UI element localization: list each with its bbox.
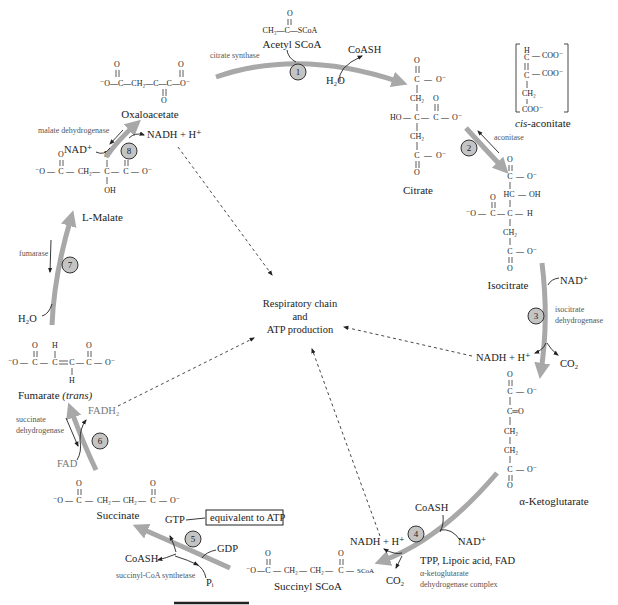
enzyme-label: succinyl-CoA synthetase (116, 571, 196, 580)
svg-text:—: — (496, 209, 506, 218)
svg-text:C: C (414, 75, 419, 84)
svg-text:HO: HO (390, 113, 402, 122)
step-5-succinyl-coa-synthetase: GTP equivalent to ATP 5 GDP CoASH Pᵢ suc… (116, 510, 285, 588)
svg-text:C: C (524, 53, 529, 62)
svg-text:SCoA: SCoA (357, 567, 374, 575)
svg-text:CH₂: CH₂ (503, 228, 517, 237)
svg-text:O⁻: O⁻ (436, 151, 446, 160)
citric-acid-cycle-diagram: O CH₃—C—SCoA Acetyl SCoA O O ⁻O—C—CH₂—C—… (0, 0, 618, 605)
isocitrate-structure: O C — O⁻ HC — OH O ⁻O — C — C — H CH₂ C … (466, 155, 541, 291)
svg-text:CH₃—C—SCoA: CH₃—C—SCoA (263, 26, 318, 35)
svg-text:—: — (130, 167, 140, 176)
oxaloacetate-structure: O O ⁻O—C—CH₂—C—C—O⁻ O Oxaloacetate (100, 60, 190, 120)
svg-text:O⁻: O⁻ (170, 496, 180, 505)
svg-text:O⁻: O⁻ (527, 172, 537, 181)
svg-text:O⁻: O⁻ (436, 75, 446, 84)
svg-text:isocitrate: isocitrate (555, 305, 585, 314)
svg-text:O: O (433, 94, 439, 103)
svg-text:O: O (507, 264, 513, 273)
water-input: H₂O (326, 75, 345, 86)
svg-text:O: O (414, 56, 420, 65)
phosphate-input: Pᵢ (206, 577, 214, 588)
svg-text:—: — (423, 75, 433, 84)
svg-text:—: — (111, 496, 121, 505)
succinate-structure: O O ⁻O — C — CH₂ — CH₂ — C — O⁻ Succinat… (53, 479, 180, 521)
svg-text:—: — (64, 496, 74, 505)
equivalent-to-atp-note: equivalent to ATP (210, 512, 285, 523)
svg-text:—: — (84, 496, 94, 505)
gdp-input: GDP (217, 543, 238, 554)
svg-text:—: — (93, 358, 103, 367)
step-2-aconitase: aconitase 2 (461, 128, 524, 168)
center-line-3: ATP production (267, 324, 334, 335)
svg-text:O: O (178, 60, 184, 69)
svg-text:O: O (76, 479, 82, 488)
co2-output: CO₂ (560, 358, 579, 369)
svg-text:—: — (440, 113, 450, 122)
fumarate-structure: O H O ⁻O — C — C C — C — O⁻ H Fumarate (… (8, 341, 115, 402)
svg-text:—: — (65, 167, 75, 176)
svg-text:1: 1 (296, 67, 301, 77)
svg-text:—: — (531, 69, 541, 78)
svg-text:6: 6 (98, 436, 103, 446)
dashed-arrow-step6 (118, 338, 254, 406)
dashed-arrow-step8 (178, 147, 272, 275)
svg-text:C: C (32, 358, 37, 367)
svg-text:O: O (161, 96, 167, 105)
enzyme-label: malate dehydrogenase (38, 126, 110, 135)
step-7-fumarase: fumarase 7 H₂O (18, 218, 78, 325)
alpha-ketoglutarate-structure: O C — O⁻ C═O CH₂ CH₂ C — O⁻ O α-Ketoglut… (504, 370, 589, 507)
nad-input: NAD⁺ (560, 275, 588, 286)
svg-text:⁻O—C—CH₂—C—C—O⁻: ⁻O—C—CH₂—C—C—O⁻ (100, 79, 190, 88)
svg-text:C: C (414, 151, 419, 160)
svg-text:α-ketoglutarate: α-ketoglutarate (420, 569, 469, 578)
electron-carrier-flows (118, 147, 472, 536)
svg-text:—: — (110, 167, 120, 176)
svg-text:C: C (150, 496, 155, 505)
svg-text:—: — (345, 566, 355, 575)
svg-text:⁻O: ⁻O (35, 167, 45, 176)
fad-input: FAD (57, 458, 78, 469)
svg-text:4: 4 (414, 529, 419, 539)
svg-text:C: C (338, 566, 343, 575)
svg-text:C: C (86, 358, 91, 367)
svg-text:O⁻: O⁻ (105, 358, 115, 367)
svg-text:OH: OH (104, 186, 116, 195)
svg-text:⁻O: ⁻O (246, 566, 256, 575)
svg-text:C: C (414, 113, 419, 122)
svg-text:—: — (298, 566, 308, 575)
svg-text:⁻O: ⁻O (8, 358, 18, 367)
acetyl-scoa-structure: O CH₃—C—SCoA Acetyl SCoA (263, 9, 322, 50)
svg-text:O: O (150, 479, 156, 488)
svg-text:C: C (265, 566, 270, 575)
cofactors-label: TPP, Lipoic acid, FAD (420, 555, 516, 566)
coash-input: CoASH (415, 502, 449, 513)
svg-text:—: — (137, 496, 147, 505)
svg-text:O: O (114, 60, 120, 69)
svg-text:C: C (76, 496, 81, 505)
cis-aconitate-label: cis-aconitate (515, 117, 571, 129)
svg-text:O⁻: O⁻ (142, 167, 152, 176)
svg-text:CH₂: CH₂ (284, 566, 298, 575)
svg-text:CH₂: CH₂ (410, 132, 424, 141)
enzyme-label: citrate synthase (210, 51, 260, 60)
svg-text:O⁻: O⁻ (527, 387, 537, 396)
citrate-structure: O C — O⁻ CH₂ O HO — C — C — O⁻ CH₂ C — O… (390, 56, 462, 196)
svg-text:—: — (39, 358, 49, 367)
svg-text:—: — (515, 247, 525, 256)
svg-text:C: C (507, 387, 512, 396)
svg-text:H: H (69, 376, 75, 385)
svg-text:COO⁻: COO⁻ (542, 51, 563, 60)
step-6-succinate-dehydrogenase: succinate dehydrogenase 6 FAD FADH₂ (16, 405, 120, 470)
svg-text:—: — (158, 496, 168, 505)
succinyl-scoa-label: Succinyl SCoA (274, 580, 342, 592)
svg-text:CH₂: CH₂ (504, 427, 518, 436)
svg-text:C: C (507, 209, 512, 218)
svg-text:O: O (507, 155, 513, 164)
fumarate-label: Fumarate (trans) (18, 389, 93, 402)
svg-text:—: — (91, 167, 101, 176)
svg-text:O: O (265, 549, 271, 558)
svg-text:CH₂: CH₂ (504, 446, 518, 455)
svg-text:O: O (338, 549, 344, 558)
svg-text:—: — (531, 51, 541, 60)
